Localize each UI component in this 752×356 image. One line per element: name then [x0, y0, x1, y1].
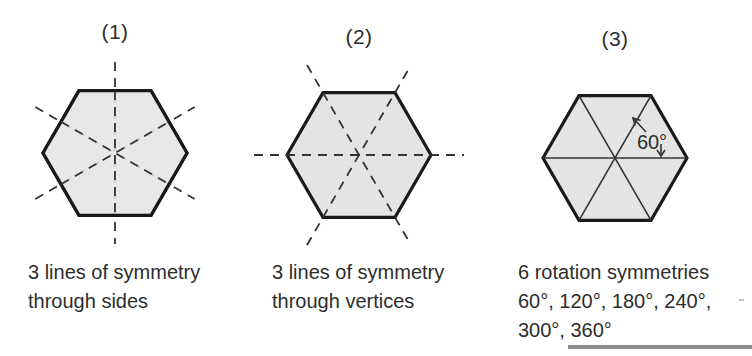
caption-line: 6 rotation symmetries	[518, 258, 711, 287]
hexagon-vertices-symmetry-diagram	[244, 55, 474, 255]
bottom-divider	[568, 345, 752, 349]
figure-number-label-3: (3)	[500, 27, 730, 51]
caption-line: 60°, 120°, 180°, 240°,	[518, 287, 711, 316]
hexagon-sides-symmetry-diagram	[0, 53, 230, 253]
caption-line: 300°, 360°	[518, 316, 711, 345]
caption-line: 3 lines of symmetry	[272, 258, 444, 287]
figure-panel-1: (1) 3 lines of symmetry through sides	[0, 0, 230, 356]
hexagon-rotation-symmetry-diagram: 60°	[500, 58, 730, 258]
figure-caption-1: 3 lines of symmetry through sides	[28, 258, 200, 316]
figure-number-label-1: (1)	[0, 20, 230, 44]
hexagon-symmetry-figure: (1) 3 lines of symmetry through sides (2…	[0, 0, 752, 356]
figure-caption-2: 3 lines of symmetry through vertices	[272, 258, 444, 316]
figure-caption-3: 6 rotation symmetries 60°, 120°, 180°, 2…	[518, 258, 711, 345]
figure-number-label-2: (2)	[244, 25, 474, 49]
caption-line: through sides	[28, 287, 200, 316]
caption-line: 3 lines of symmetry	[28, 258, 200, 287]
figure-panel-2: (2) 3 lines of symmetry through vertices	[244, 0, 474, 356]
stray-mark	[739, 299, 744, 301]
page: { "figures": [ { "label": "(1)", "captio…	[0, 0, 752, 356]
caption-line: through vertices	[272, 287, 444, 316]
figure-panel-3: (3) 60° 6 rotation symmetries 60°, 120°,…	[500, 0, 730, 356]
angle-label: 60°	[637, 131, 667, 153]
